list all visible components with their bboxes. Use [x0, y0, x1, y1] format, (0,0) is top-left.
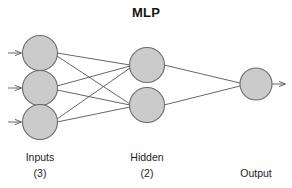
hidden-layer-count: (2)	[141, 167, 154, 179]
hidden-node-1[interactable]	[130, 48, 165, 83]
input-layer-nodes	[23, 36, 58, 140]
output-node-1[interactable]	[240, 68, 272, 100]
output-layer-label: Output	[240, 167, 272, 179]
input-node-1[interactable]	[23, 36, 58, 71]
mlp-diagram: MLP	[0, 0, 292, 188]
network-diagram-svg: MLP	[0, 0, 292, 188]
input-layer-label: Inputs	[26, 151, 55, 163]
edge-h1-o1	[164, 65, 240, 83]
layer-labels: Inputs (3) Hidden (2) Output	[26, 151, 272, 179]
hidden-node-2[interactable]	[130, 88, 165, 123]
edges-input-to-hidden	[57, 53, 130, 122]
edge-i2-h2	[57, 90, 130, 105]
edge-h2-o1	[164, 86, 240, 105]
input-arrows	[8, 53, 21, 122]
edge-i3-h2	[57, 107, 130, 122]
output-layer-nodes	[240, 68, 272, 100]
hidden-layer-nodes	[130, 48, 165, 123]
input-node-2[interactable]	[23, 71, 58, 106]
hidden-layer-label: Hidden	[130, 151, 163, 163]
page-title: MLP	[132, 5, 160, 20]
edges-hidden-to-output	[164, 65, 240, 105]
input-node-3[interactable]	[23, 105, 58, 140]
input-layer-count: (3)	[34, 167, 47, 179]
